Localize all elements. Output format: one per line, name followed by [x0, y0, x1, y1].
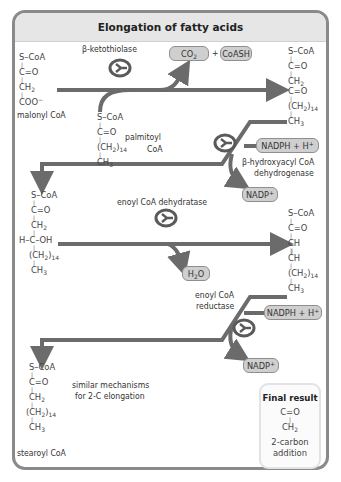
- final-result-title: Final result: [261, 393, 319, 403]
- enzyme-label-ketothiolase: β-ketothiolase: [82, 44, 137, 55]
- structure-line: C=O: [29, 377, 56, 387]
- co2-pill: CO2: [169, 46, 209, 61]
- h2o-pill: H2O: [182, 266, 210, 281]
- structure-line: CH2: [288, 76, 318, 86]
- enzyme-label-reductase-2: reductase: [196, 301, 234, 312]
- structure-line: H–C–OH: [19, 235, 59, 245]
- final-result-desc: 2-carbon addition: [261, 437, 319, 459]
- structure-line: CH: [288, 253, 318, 263]
- structure-line: S–CoA: [29, 362, 56, 372]
- structure-line: S–CoA: [288, 46, 318, 56]
- nadp1-release: [230, 154, 240, 183]
- palmitoyl-coa-label-2: CoA: [147, 144, 162, 155]
- structure-line: S–CoA: [19, 190, 59, 200]
- plus-sign: +: [212, 48, 218, 59]
- ketoacyl-coa-structure: S–CoA | C=O | CH2 C=O | (CH2)14 | CH3: [288, 46, 318, 126]
- enzyme-label-dehydrogenase-2: dehydrogenase: [254, 168, 314, 179]
- note-line-1: similar mechanisms: [72, 380, 149, 391]
- structure-line: CH3: [97, 157, 127, 167]
- structure-line: C=O: [19, 205, 59, 215]
- structure-line: CH3: [288, 283, 318, 293]
- structure-line: C=O: [288, 61, 318, 71]
- final-result-box: Final result C=O | CH2 2-carbon addition: [259, 383, 321, 469]
- malonyl-coa-label: malonyl CoA: [17, 110, 66, 121]
- structure-line: S–CoA: [97, 112, 127, 122]
- enoyl-coa-structure: S–CoA | C=O | CH ‖ CH | (CH2)14 | CH3: [288, 208, 318, 293]
- enzyme-label-dehydrogenase-1: β-hydroxyacyl CoA: [242, 157, 314, 168]
- desc-line: addition: [261, 448, 319, 459]
- structure-line: CH2: [29, 392, 56, 402]
- structure-line: C=O: [97, 127, 127, 137]
- structure-line: S–CoA: [288, 208, 318, 218]
- nadph-pill-2: NADPH + H+: [264, 305, 322, 320]
- palmitoyl-feed-arrow: [100, 90, 130, 112]
- co2-release-arrow: [160, 70, 184, 90]
- structure-line: C=O: [288, 223, 318, 233]
- enzyme-icon-reductase: [234, 320, 254, 336]
- palmitoyl-coa-label-1: palmitoyl: [125, 132, 161, 143]
- enzyme-label-reductase-1: enoyl CoA: [195, 290, 234, 301]
- nadp-pill-2: NADP+: [243, 358, 279, 373]
- nadp-pill-1: NADP+: [242, 187, 278, 202]
- stearoyl-coa-structure: S–CoA | C=O | CH2 | (CH2)14 | CH3: [29, 362, 56, 432]
- final-result-structure: C=O | CH2: [261, 407, 319, 432]
- note-line-2: for 2-C elongation: [75, 391, 145, 402]
- step2-arrow: [42, 122, 287, 183]
- structure-line: CH2: [261, 422, 319, 432]
- structure-line: (CH2)14: [288, 101, 318, 111]
- desc-line: 2-carbon: [261, 437, 319, 448]
- h2o-release: [168, 244, 182, 265]
- structure-line: CH3: [29, 422, 56, 432]
- structure-line: C=O: [288, 86, 318, 96]
- enzyme-icon-dehydratase: [156, 210, 176, 226]
- enzyme-icon-dehydrogenase: [215, 135, 235, 151]
- structure-line: COO−: [19, 97, 45, 107]
- enzyme-icon-ketothiolase: [110, 60, 130, 76]
- coash-pill: CoASH: [220, 46, 252, 61]
- structure-line: CH3: [288, 116, 318, 126]
- structure-line: CH3: [19, 265, 59, 275]
- structure-line: (CH2)14: [97, 142, 127, 152]
- nadph-pill-1: NADPH + H+: [256, 138, 319, 153]
- enzyme-label-dehydratase: enoyl CoA dehydratase: [117, 197, 207, 208]
- structure-line: (CH2)14: [288, 268, 318, 278]
- structure-line: CH2: [19, 220, 59, 230]
- hydroxyacyl-coa-structure: S–CoA | C=O | CH2 | H–C–OH | (CH2)14 | C…: [19, 190, 59, 275]
- palmitoyl-coa-structure: S–CoA | C=O | (CH2)14 | CH3: [97, 112, 127, 167]
- stearoyl-coa-label: stearoyl CoA: [17, 448, 66, 459]
- malonyl-coa-structure: S–CoA | C=O | CH2 | COO−: [19, 52, 45, 107]
- structure-line: (CH2)14: [19, 250, 59, 260]
